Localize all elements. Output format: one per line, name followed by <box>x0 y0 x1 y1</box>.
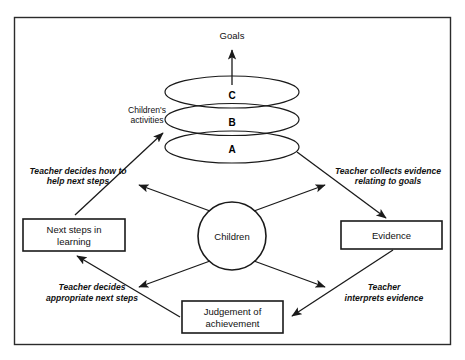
judgement-box-line1: Judgement of <box>204 306 262 317</box>
next-steps-box-line2: learning <box>57 236 91 247</box>
annotation-teacher-collects-evidence-line2: relating to goals <box>355 176 422 186</box>
annotation-teacher-decides-help-line2: help next steps <box>47 176 110 186</box>
arrow-children-downleft <box>139 261 210 287</box>
evidence-box-label: Evidence <box>372 230 411 241</box>
arrow-children-upleft <box>139 185 210 211</box>
annotation-teacher-decides-next-steps-line2: appropriate next steps <box>46 293 138 303</box>
childrens-activities-label-line2: activities <box>131 115 164 125</box>
arrow-children-upright <box>254 185 325 211</box>
annotation-teacher-decides-next-steps-line1: Teacher decides <box>58 282 125 292</box>
annotation-teacher-interprets-evidence-line1: Teacher <box>368 282 401 292</box>
next-steps-box-line1: Next steps in <box>47 224 102 235</box>
childrens-activities-label-line1: Children's <box>128 105 166 115</box>
annotation-teacher-decides-help-line1: Teacher decides how to <box>29 166 126 176</box>
arrow-children-downright <box>254 261 325 287</box>
ellipse-a-label: A <box>228 144 235 155</box>
annotation-teacher-collects-evidence-line1: Teacher collects evidence <box>335 166 441 176</box>
diagram-canvas: Goals C B A Children's activities Teache… <box>0 0 465 360</box>
annotation-teacher-interprets-evidence-line2: interprets evidence <box>345 293 424 303</box>
children-label: Children <box>214 231 249 242</box>
judgement-box-line2: achievement <box>206 318 260 329</box>
ellipse-c-label: C <box>228 90 235 101</box>
ellipse-b-label: B <box>228 117 235 128</box>
assessment-cycle-diagram: Goals C B A Children's activities Teache… <box>0 0 465 360</box>
goals-label: Goals <box>220 30 245 41</box>
